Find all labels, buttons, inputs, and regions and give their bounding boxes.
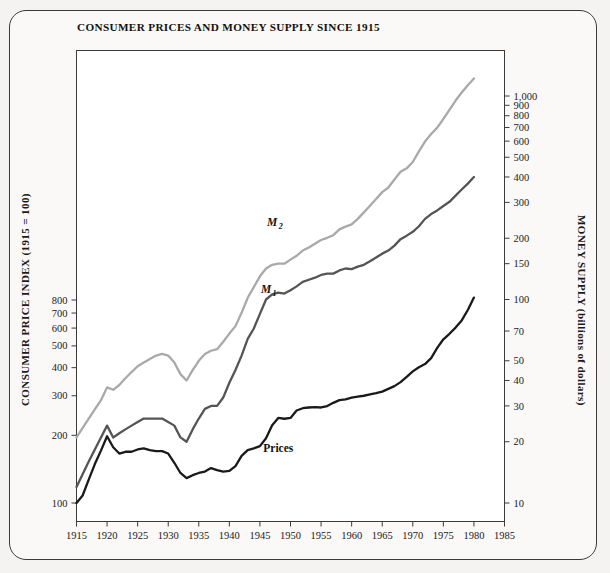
right-tick-label: 300 — [514, 197, 530, 208]
series-label-m2: M — [266, 216, 278, 228]
x-tick-label: 1940 — [219, 530, 240, 541]
left-tick-label: 300 — [52, 390, 68, 401]
x-tick-label: 1935 — [188, 530, 209, 541]
x-tick-label: 1985 — [494, 530, 515, 541]
left-axis-label: CONSUMER PRICE INDEX (1915 = 100) — [19, 193, 32, 406]
right-tick-label: 1,000 — [514, 91, 538, 102]
left-tick-label: 700 — [52, 308, 68, 319]
series-label-prices: Prices — [263, 442, 294, 454]
x-tick-label: 1960 — [341, 530, 362, 541]
right-tick-label: 400 — [514, 172, 530, 183]
right-tick-label: 100 — [514, 294, 530, 305]
right-tick-label: 150 — [514, 258, 530, 269]
left-tick-label: 600 — [52, 323, 68, 334]
x-tick-label: 1945 — [249, 530, 270, 541]
x-tick-label: 1965 — [372, 530, 393, 541]
right-tick-label: 40 — [514, 375, 525, 386]
right-tick-label: 20 — [514, 436, 525, 447]
x-tick-label: 1915 — [66, 530, 87, 541]
left-tick-label: 500 — [52, 340, 68, 351]
series-label-subscript-m2: 2 — [278, 222, 283, 231]
left-tick-label: 100 — [52, 498, 68, 509]
right-tick-label: 10 — [514, 498, 525, 509]
right-tick-label: 600 — [514, 136, 530, 147]
x-tick-label: 1980 — [463, 530, 484, 541]
figure-container: CONSUMER PRICES AND MONEY SUPPLY SINCE 1… — [0, 0, 610, 573]
x-tick-label: 1975 — [433, 530, 454, 541]
x-axis-ticks: 1915192019251930193519401945195019551960… — [66, 522, 515, 541]
x-tick-label: 1920 — [97, 530, 118, 541]
right-axis-ticks: 1020304050701001502003004005006007008009… — [505, 91, 538, 509]
x-tick-label: 1930 — [158, 530, 179, 541]
right-tick-label: 50 — [514, 355, 525, 366]
left-axis-ticks: 100200300400500600700800 — [52, 295, 77, 509]
left-tick-label: 400 — [52, 362, 68, 373]
right-tick-label: 70 — [514, 326, 525, 337]
x-tick-label: 1970 — [402, 530, 423, 541]
chart-plot: 100200300400500600700800 102030405070100… — [0, 0, 610, 573]
series-label-m1: M — [260, 283, 272, 295]
right-tick-label: 800 — [514, 110, 530, 121]
x-tick-label: 1955 — [311, 530, 332, 541]
left-tick-label: 800 — [52, 295, 68, 306]
right-tick-label: 700 — [514, 122, 530, 133]
left-tick-label: 200 — [52, 430, 68, 441]
right-tick-label: 200 — [514, 233, 530, 244]
series-label-subscript-m1: 1 — [273, 289, 277, 298]
right-tick-label: 500 — [514, 152, 530, 163]
right-axis-label: MONEY SUPPLY (billions of dollars) — [575, 215, 588, 406]
x-tick-label: 1925 — [127, 530, 148, 541]
x-tick-label: 1950 — [280, 530, 301, 541]
right-tick-label: 30 — [514, 401, 525, 412]
